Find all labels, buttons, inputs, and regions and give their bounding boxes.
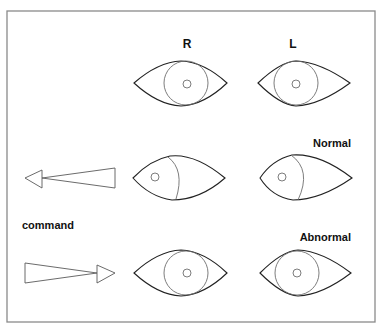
iris [164, 61, 208, 105]
arrow-right-icon [97, 265, 115, 283]
command-arrow-right [25, 263, 115, 283]
column-label-right: R [183, 37, 192, 51]
eyelid-outline [258, 61, 350, 106]
row-primary [134, 61, 350, 106]
right-eye-abnormal [134, 250, 227, 296]
pupil [151, 173, 159, 181]
row-label-abnormal: Abnormal [300, 231, 351, 243]
iris [164, 251, 208, 295]
pupil [278, 173, 286, 181]
diagram-frame [7, 11, 375, 322]
iris [274, 61, 318, 105]
column-label-left: L [289, 37, 296, 51]
eyelid-outline [134, 250, 227, 296]
eyelid-outline [260, 155, 352, 200]
eye-movement-diagram: R L Normal [0, 0, 383, 329]
right-eye-normal [133, 156, 225, 200]
pupil [292, 80, 300, 88]
arrow-right-tail [25, 263, 97, 283]
row-abnormal [25, 250, 351, 296]
row-label-normal: Normal [313, 137, 351, 149]
arrow-left-icon [25, 170, 42, 188]
row-normal [25, 155, 352, 200]
command-label: command [22, 219, 74, 231]
eyelid-outline [134, 61, 227, 106]
arrow-left-tail [42, 168, 115, 188]
pupil [183, 269, 191, 277]
pupil [293, 269, 301, 277]
left-eye-primary [258, 61, 350, 106]
iris [291, 155, 304, 200]
left-eye-normal [260, 155, 352, 200]
right-eye-primary [134, 61, 227, 106]
left-eye-abnormal [260, 250, 351, 296]
iris [275, 251, 319, 295]
iris [168, 157, 179, 199]
pupil [183, 80, 191, 88]
eyelid-outline [260, 250, 351, 296]
command-arrow-left [25, 168, 115, 188]
